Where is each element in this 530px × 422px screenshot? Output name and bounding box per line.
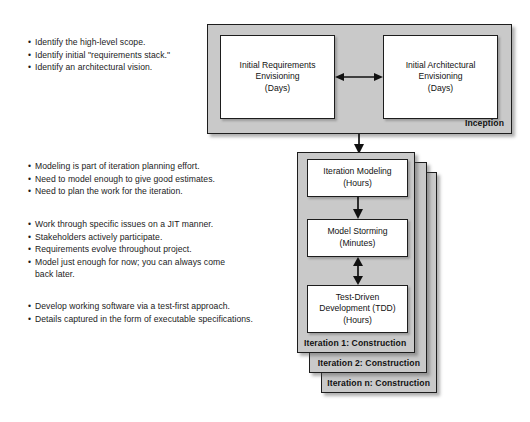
bullet-text: Develop working software via a test-firs… xyxy=(35,300,253,313)
phase-box-inception: Initial Requirements Envisioning (Days) … xyxy=(207,24,512,134)
bullet-item: • Develop working software via a test-fi… xyxy=(28,300,253,313)
activity-line: (Hours) xyxy=(343,315,372,327)
activity-line: (Days) xyxy=(428,83,453,95)
bullet-text: Identify initial "requirements stack." xyxy=(35,49,170,62)
bullet-text-continuation: back later. xyxy=(28,268,225,281)
bullet-text: Requirements evolve throughout project. xyxy=(35,243,225,256)
activity-line: Envisioning xyxy=(419,71,463,83)
bullet-dot-icon: • xyxy=(28,160,35,173)
activity-line: (Hours) xyxy=(343,178,372,190)
bullet-text: Model just enough for now; you can alway… xyxy=(35,256,225,269)
bullet-text: Details captured in the form of executab… xyxy=(35,313,253,326)
activity-line: (Minutes) xyxy=(340,238,376,250)
bullet-group-tdd-notes: • Develop working software via a test-fi… xyxy=(28,300,253,325)
bullet-item: • Need to plan the work for the iteratio… xyxy=(28,185,215,198)
bullet-dot-icon: • xyxy=(28,61,35,74)
diagram-canvas: • Identify the high-level scope. • Ident… xyxy=(0,0,530,422)
activity-box-model-storming: Model Storming (Minutes) xyxy=(307,219,408,257)
bullet-dot-icon: • xyxy=(28,173,35,186)
connector-inception-to-construction xyxy=(353,134,365,154)
connector-envisioning-bidirectional xyxy=(335,69,383,85)
activity-line: Iteration Modeling xyxy=(323,166,391,178)
activity-box-initial-architectural-envisioning: Initial Architectural Envisioning (Days) xyxy=(383,35,498,119)
activity-line: Test-Driven xyxy=(336,292,379,304)
bullet-text: Stakeholders actively participate. xyxy=(35,231,225,244)
bullet-dot-icon: • xyxy=(28,243,35,256)
bullet-dot-icon: • xyxy=(28,256,35,269)
activity-box-iteration-modeling: Iteration Modeling (Hours) xyxy=(307,159,408,197)
bullet-dot-icon: • xyxy=(28,231,35,244)
bullet-dot-icon: • xyxy=(28,313,35,326)
bullet-item: • Model just enough for now; you can alw… xyxy=(28,256,225,269)
activity-box-test-driven-development: Test-Driven Development (TDD) (Hours) xyxy=(307,285,408,333)
bullet-text: Identify the high-level scope. xyxy=(35,36,170,49)
bullet-item: • Identify the high-level scope. xyxy=(28,36,170,49)
stack-label-iteration-2: Iteration 2: Construction xyxy=(318,358,420,368)
bullet-item: • Requirements evolve throughout project… xyxy=(28,243,225,256)
activity-line: Initial Requirements xyxy=(240,60,316,72)
bullet-text: Modeling is part of iteration planning e… xyxy=(35,160,215,173)
bullet-item: • Need to model enough to give good esti… xyxy=(28,173,215,186)
bullet-item: • Identify an architectural vision. xyxy=(28,61,170,74)
stack-label-iteration-1: Iteration 1: Construction xyxy=(304,338,406,348)
bullet-item: • Identify initial "requirements stack." xyxy=(28,49,170,62)
activity-line: Model Storming xyxy=(327,226,387,238)
phase-label-inception: Inception xyxy=(465,118,504,128)
activity-box-initial-requirements-envisioning: Initial Requirements Envisioning (Days) xyxy=(220,35,335,119)
phase-box-iteration-1-construction: Iteration Modeling (Hours) Model Stormin… xyxy=(297,152,415,353)
bullet-text: Need to model enough to give good estima… xyxy=(35,173,215,186)
bullet-dot-icon: • xyxy=(28,218,35,231)
activity-line: Development (TDD) xyxy=(319,303,395,315)
stack-label-iteration-n: Iteration n: Construction xyxy=(327,378,430,388)
activity-line: Initial Architectural xyxy=(406,60,476,72)
bullet-dot-icon: • xyxy=(28,300,35,313)
bullet-group-inception-notes: • Identify the high-level scope. • Ident… xyxy=(28,36,170,74)
connector-model-storming-to-tdd xyxy=(352,257,364,285)
bullet-item: • Stakeholders actively participate. xyxy=(28,231,225,244)
bullet-dot-icon: • xyxy=(28,36,35,49)
connector-iteration-modeling-to-model-storming xyxy=(352,197,364,219)
bullet-dot-icon: • xyxy=(28,185,35,198)
activity-line: (Days) xyxy=(265,83,290,95)
bullet-text: Identify an architectural vision. xyxy=(35,61,170,74)
bullet-item: • Details captured in the form of execut… xyxy=(28,313,253,326)
bullet-group-model-storming-notes: • Work through specific issues on a JIT … xyxy=(28,218,225,281)
bullet-dot-icon: • xyxy=(28,49,35,62)
bullet-item: • Work through specific issues on a JIT … xyxy=(28,218,225,231)
bullet-group-iteration-modeling-notes: • Modeling is part of iteration planning… xyxy=(28,160,215,198)
bullet-text: Need to plan the work for the iteration. xyxy=(35,185,215,198)
bullet-text: Work through specific issues on a JIT ma… xyxy=(35,218,225,231)
activity-line: Envisioning xyxy=(256,71,300,83)
bullet-item: • Modeling is part of iteration planning… xyxy=(28,160,215,173)
